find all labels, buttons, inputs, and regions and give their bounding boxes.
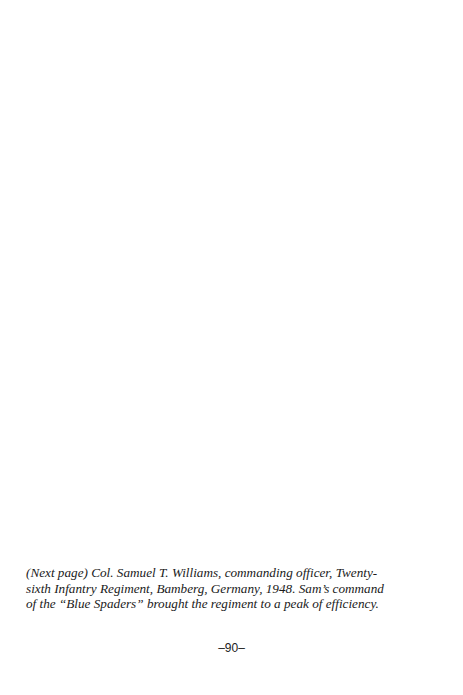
page-number: –90– [0,641,463,655]
photo-caption: (Next page) Col. Samuel T. Williams, com… [26,565,446,612]
caption-line: sixth Infantry Regiment, Bamberg, German… [26,581,446,597]
caption-line: of the “Blue Spaders” brought the regime… [26,596,446,612]
caption-line: (Next page) Col. Samuel T. Williams, com… [26,565,446,581]
